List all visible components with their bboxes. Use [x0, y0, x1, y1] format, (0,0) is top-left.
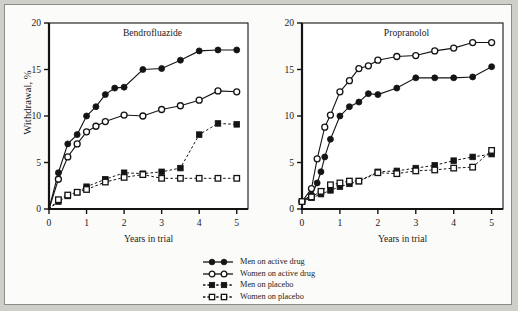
data-point	[178, 165, 184, 171]
data-point	[215, 88, 221, 94]
x-tick-label: 0	[47, 217, 52, 228]
legend-marker	[221, 294, 226, 299]
data-point	[196, 97, 202, 103]
x-axis-label: Years in trial	[378, 233, 427, 244]
data-point	[159, 176, 165, 182]
data-point	[322, 154, 328, 160]
data-point	[337, 89, 343, 95]
data-point	[299, 199, 305, 205]
data-point	[489, 64, 495, 70]
data-point	[470, 74, 476, 80]
data-point	[489, 40, 495, 46]
y-tick-label: 15	[31, 64, 41, 75]
x-tick-label: 1	[84, 217, 89, 228]
legend: Men on active drug Women on active drug …	[201, 257, 351, 303]
legend-item: Men on placebo	[201, 280, 351, 291]
data-point	[314, 156, 320, 162]
data-point	[74, 132, 80, 138]
data-point	[413, 75, 419, 81]
y-tick-label: 5	[289, 157, 294, 168]
data-point	[159, 66, 165, 72]
data-point	[451, 158, 457, 164]
data-point	[215, 47, 221, 53]
data-point	[394, 85, 400, 91]
x-tick-label: 5	[489, 217, 494, 228]
data-point	[451, 165, 457, 171]
data-point	[337, 180, 343, 186]
data-point	[103, 179, 109, 185]
legend-item: Women on active drug	[201, 269, 351, 280]
data-point	[413, 53, 419, 59]
data-point	[318, 189, 324, 195]
data-point	[432, 75, 438, 81]
data-point	[356, 66, 362, 72]
data-point	[451, 75, 457, 81]
data-point	[55, 170, 61, 176]
data-point	[102, 92, 108, 98]
legend-label: Men on placebo	[240, 280, 293, 290]
data-point	[112, 85, 118, 91]
data-point	[56, 197, 62, 203]
data-point	[102, 119, 108, 125]
data-point	[356, 99, 362, 105]
data-point	[215, 176, 221, 182]
y-tick-label: 0	[36, 203, 41, 214]
y-tick-label: 20	[31, 17, 41, 28]
data-point	[451, 45, 457, 51]
panel-title: Propranolol	[384, 27, 430, 38]
data-point	[413, 168, 419, 174]
x-tick-label: 5	[234, 217, 239, 228]
legend-key-women-active	[201, 269, 235, 279]
x-tick-label: 2	[122, 217, 127, 228]
x-axis-label: Years in trial	[124, 233, 173, 244]
legend-marker	[221, 283, 226, 288]
legend-label: Women on placebo	[240, 292, 304, 302]
legend-marker	[221, 259, 227, 265]
panel-bendrofluazide: 05101520012345BendrofluazideYears in tri…	[5, 5, 258, 251]
data-point	[84, 129, 90, 135]
legend-marker	[209, 259, 215, 265]
data-point	[328, 188, 334, 194]
legend-marker	[209, 271, 215, 277]
data-point	[470, 40, 476, 46]
data-point	[234, 89, 240, 95]
data-point	[121, 175, 127, 181]
y-tick-label: 0	[289, 203, 294, 214]
data-point	[308, 186, 314, 192]
data-point	[196, 176, 202, 182]
data-point	[346, 78, 352, 84]
data-point	[347, 178, 353, 184]
data-point	[337, 113, 343, 119]
x-tick-label: 3	[159, 217, 164, 228]
x-tick-label: 3	[413, 217, 418, 228]
x-tick-label: 4	[451, 217, 456, 228]
data-point	[65, 154, 71, 160]
data-point	[159, 106, 165, 112]
data-point	[470, 154, 476, 160]
legend-key-women-placebo	[201, 292, 235, 302]
data-point	[196, 132, 202, 138]
panel-propranolol: 05101520012345PropranololYears in trial	[258, 5, 513, 251]
data-point	[432, 48, 438, 54]
y-tick-label: 5	[36, 157, 41, 168]
data-point	[346, 104, 352, 110]
data-point	[121, 84, 127, 90]
data-point	[470, 164, 476, 170]
legend-item: Men on active drug	[201, 257, 351, 268]
data-point	[309, 194, 315, 200]
legend-label: Women on active drug	[240, 269, 315, 279]
legend-key-men-active	[201, 257, 235, 267]
data-point	[318, 169, 324, 175]
data-point	[121, 112, 127, 118]
data-point	[65, 141, 71, 147]
data-point	[356, 178, 362, 184]
legend-marker	[221, 271, 227, 277]
data-point	[322, 124, 328, 130]
data-point	[327, 136, 333, 142]
legend-marker	[209, 283, 214, 288]
data-point	[314, 180, 320, 186]
data-point	[177, 103, 183, 109]
x-tick-label: 1	[338, 217, 343, 228]
data-point	[159, 169, 165, 175]
y-tick-label: 10	[284, 110, 294, 121]
